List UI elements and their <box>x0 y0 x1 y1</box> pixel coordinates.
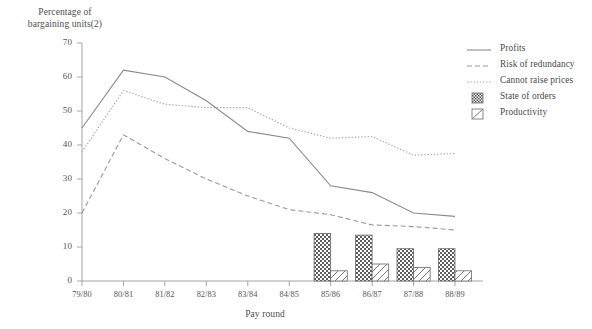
legend-item-cannot-raise-prices[interactable]: Cannot raise prices <box>466 72 592 88</box>
x-tick-label-88-89: 88/89 <box>435 290 475 299</box>
x-tick-label-83-84: 83/84 <box>228 290 268 299</box>
diagonal-hatch-swatch <box>466 106 492 118</box>
x-tick-label-84-85: 84/85 <box>269 290 309 299</box>
legend-label: Profits <box>500 43 526 53</box>
line-risk-of-redundancy <box>82 135 455 230</box>
legend-item-state-of-orders[interactable]: State of orders <box>466 88 592 104</box>
bar-state-of-orders-86/87 <box>356 235 373 281</box>
chart-figure: Percentage of bargaining units(2) 010203… <box>0 0 592 329</box>
x-tick-label-85-86: 85/86 <box>311 290 351 299</box>
y-tick-label: 20 <box>46 207 72 217</box>
bar-productivity-87/88 <box>414 267 431 281</box>
bar-productivity-88/89 <box>455 271 472 281</box>
y-tick-label: 10 <box>46 241 72 251</box>
legend-label: Productivity <box>500 107 547 117</box>
x-tick-label-87-88: 87/88 <box>394 290 434 299</box>
bar-state-of-orders-85/86 <box>314 233 331 281</box>
x-tick-label-82-83: 82/83 <box>186 290 226 299</box>
y-tick-label: 50 <box>46 105 72 115</box>
bar-state-of-orders-88/89 <box>438 249 455 281</box>
legend-label: Cannot raise prices <box>500 75 573 85</box>
y-tick-label: 0 <box>46 275 72 285</box>
dotted-line-swatch <box>466 74 492 86</box>
legend-item-productivity[interactable]: Productivity <box>466 104 592 120</box>
bar-productivity-85/86 <box>331 271 348 281</box>
x-tick-label-80-81: 80/81 <box>103 290 143 299</box>
y-tick-label: 40 <box>46 139 72 149</box>
y-tick-label: 30 <box>46 173 72 183</box>
y-tick-label: 60 <box>46 71 72 81</box>
solid-line-swatch <box>466 42 492 54</box>
legend-item-risk-of-redundancy[interactable]: Risk of redundancy <box>466 56 592 72</box>
line-cannot-raise-prices <box>82 91 455 156</box>
chart-legend: ProfitsRisk of redundancyCannot raise pr… <box>466 40 592 120</box>
dashed-line-swatch <box>466 58 492 70</box>
legend-label: Risk of redundancy <box>500 59 575 69</box>
legend-item-profits[interactable]: Profits <box>466 40 592 56</box>
x-tick-label-86-87: 86/87 <box>352 290 392 299</box>
x-axis-title: Pay round <box>200 309 330 321</box>
legend-label: State of orders <box>500 91 556 101</box>
x-tick-label-81-82: 81/82 <box>145 290 185 299</box>
y-tick-label: 70 <box>46 37 72 47</box>
bar-productivity-86/87 <box>372 264 389 281</box>
x-tick-label-79-80: 79/80 <box>62 290 102 299</box>
checkerboard-swatch <box>466 90 492 102</box>
bar-state-of-orders-87/88 <box>397 249 414 281</box>
